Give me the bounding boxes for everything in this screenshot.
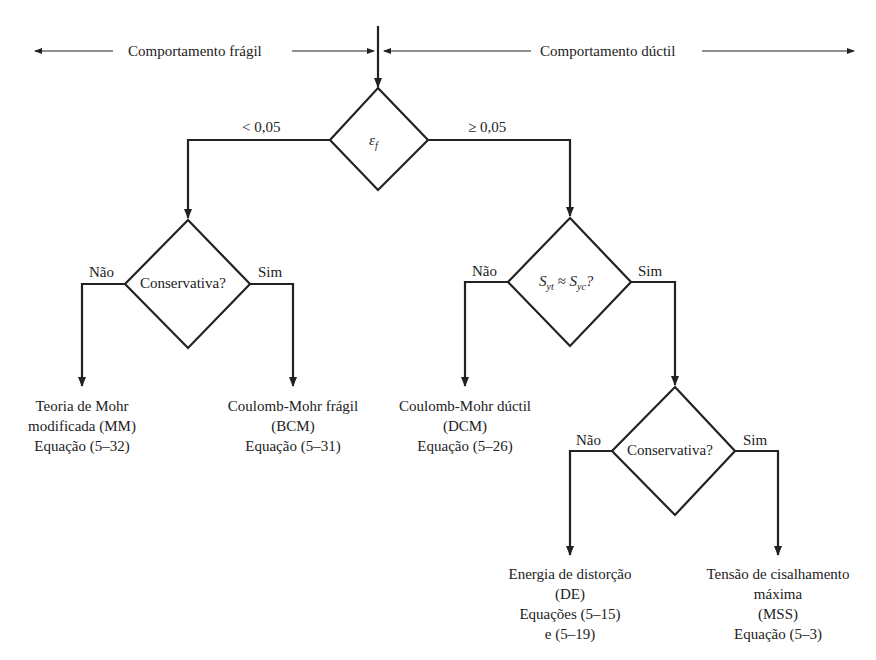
outcome-mm: Teoria de Mohr modificada (MM) Equação (… [28,396,136,456]
strength-question: Syt ≈ Syc? [539,272,593,296]
connector-mss [735,451,778,555]
outcome-bcm: Coulomb-Mohr frágil (BCM) Equação (5–31) [228,396,358,456]
outcome-mss: Tensão de cisalhamento máxima (MSS) Equa… [706,564,849,644]
brittle-yes-label: Sim [258,263,282,281]
ductile-yes-label: Sim [743,431,767,449]
brittle-behavior-label: Comportamento frágil [128,42,262,60]
connector-brittle [188,140,330,218]
ductile-conservative-question: Conservativa? [627,441,713,459]
strain-symbol: εf [369,131,378,155]
strength-no-label: Não [472,262,497,280]
connector-bcm [250,284,293,386]
outcome-dcm: Coulomb-Mohr dúctil (DCM) Equação (5–26) [399,396,531,456]
branch-label-less: < 0,05 [242,118,280,136]
connector-dcm [465,282,508,386]
strength-yes-label: Sim [638,262,662,280]
flowchart-lines [0,0,876,660]
branch-label-greater-equal: ≥ 0,05 [468,118,506,136]
connector-ductile-conservative [631,282,675,385]
connector-ductile [428,140,570,216]
ductile-no-label: Não [576,431,601,449]
connector-de [570,451,612,555]
outcome-de: Energia de distorção (DE) Equações (5–15… [508,564,631,644]
ductile-behavior-label: Comportamento dúctil [540,42,675,60]
decision-strain-diamond [330,88,428,190]
brittle-no-label: Não [89,263,114,281]
brittle-conservative-question: Conservativa? [140,274,226,292]
connector-mm [82,284,125,386]
